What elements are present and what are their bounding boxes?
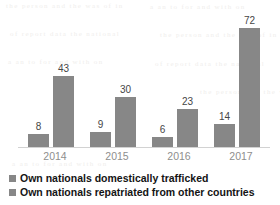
x-axis-label-2016: 2016 xyxy=(148,150,210,162)
bar-value-label: 43 xyxy=(44,63,84,74)
bar-rect xyxy=(90,132,111,147)
bar-rect xyxy=(214,124,235,147)
bar[interactable]: 9 xyxy=(90,132,111,147)
legend-label: Own nationals domestically trafficked xyxy=(20,172,208,184)
x-axis-line xyxy=(18,147,270,148)
legend-item[interactable]: Own nationals domestically trafficked xyxy=(9,171,280,185)
legend-swatch-icon xyxy=(9,175,16,182)
bar-group: 930 xyxy=(86,10,148,147)
legend-swatch-icon xyxy=(9,189,16,196)
bar[interactable]: 8 xyxy=(28,134,49,147)
bar-rect xyxy=(53,76,74,147)
legend-item[interactable]: Own nationals repatriated from other cou… xyxy=(9,185,280,199)
bar-group: 843 xyxy=(24,10,86,147)
bar-rect xyxy=(177,109,198,147)
bar-rect xyxy=(28,134,49,147)
bar-rect xyxy=(152,137,173,147)
chart-legend: Own nationals domestically traffickedOwn… xyxy=(9,171,280,199)
bar[interactable]: 23 xyxy=(177,109,198,147)
bar-value-label: 30 xyxy=(106,84,146,95)
x-axis-label-2014: 2014 xyxy=(24,150,86,162)
plot-area: 8439306231472 xyxy=(18,10,270,147)
bar[interactable]: 43 xyxy=(53,76,74,147)
bar[interactable]: 72 xyxy=(239,28,260,147)
bar-group: 1472 xyxy=(210,10,272,147)
bar-value-label: 23 xyxy=(168,96,208,107)
bar[interactable]: 30 xyxy=(115,97,136,147)
bar[interactable]: 6 xyxy=(152,137,173,147)
bar-value-label: 72 xyxy=(230,15,270,26)
x-axis-label-2015: 2015 xyxy=(86,150,148,162)
legend-label: Own nationals repatriated from other cou… xyxy=(20,186,255,198)
bar-group: 623 xyxy=(148,10,210,147)
bar-rect xyxy=(115,97,136,147)
bar[interactable]: 14 xyxy=(214,124,235,147)
x-axis-label-2017: 2017 xyxy=(210,150,272,162)
bar-rect xyxy=(239,28,260,147)
